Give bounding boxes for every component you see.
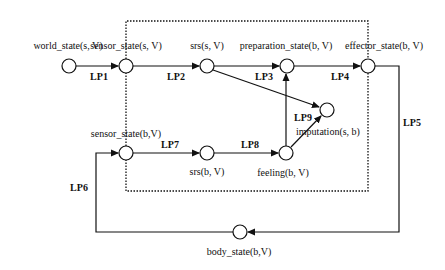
edge-label-lp1: LP1 bbox=[90, 71, 108, 82]
edge-lp6 bbox=[96, 153, 233, 232]
label-effector-state: effector_state(b, V) bbox=[345, 40, 423, 52]
node-body-state bbox=[233, 225, 247, 239]
node-imputation bbox=[320, 103, 334, 117]
edge-label-lp4: LP4 bbox=[331, 71, 349, 82]
label-sensor-state-b: sensor_state(b,V) bbox=[91, 128, 161, 140]
node-srs-s bbox=[200, 59, 214, 73]
edge-label-lp7: LP7 bbox=[161, 139, 179, 150]
node-effector-state bbox=[361, 59, 375, 73]
label-imputation: imputation(s, b) bbox=[296, 126, 360, 138]
node-preparation-state bbox=[280, 59, 294, 73]
label-srs-s: srs(s, V) bbox=[190, 40, 224, 52]
node-world-state bbox=[62, 59, 76, 73]
edge-lp5 bbox=[248, 66, 399, 232]
edge-label-lp5: LP5 bbox=[403, 117, 421, 128]
edge-label-lp2: LP2 bbox=[167, 71, 185, 82]
label-sensor-state-s: sensor_state(s, V) bbox=[90, 40, 161, 52]
edge-label-lp6: LP6 bbox=[70, 182, 88, 193]
label-feeling: feeling(b, V) bbox=[257, 167, 308, 179]
node-sensor-state-s bbox=[119, 59, 133, 73]
edge-label-lp3: LP3 bbox=[255, 71, 273, 82]
node-sensor-state-b bbox=[119, 146, 133, 160]
edge-label-lp8: LP8 bbox=[241, 139, 259, 150]
label-body-state: body_state(b,V) bbox=[207, 246, 272, 258]
node-srs-b bbox=[200, 146, 214, 160]
edge-label-lp9: LP9 bbox=[294, 112, 312, 123]
label-preparation-state: preparation_state(b, V) bbox=[240, 40, 333, 52]
label-srs-b: srs(b, V) bbox=[190, 166, 225, 178]
node-feeling bbox=[279, 146, 293, 160]
diagram-canvas: world_state(s, V) sensor_state(s, V) srs… bbox=[0, 0, 445, 270]
